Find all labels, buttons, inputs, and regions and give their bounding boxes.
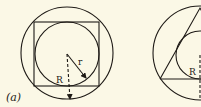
- diagram-canvas: (a) R r R: [0, 0, 201, 107]
- radius-R-line: [67, 54, 70, 99]
- panel-a: [21, 7, 113, 99]
- label-R-a: R: [56, 75, 63, 85]
- label-r-a: r: [78, 57, 83, 67]
- panel-a-caption: (a): [6, 91, 21, 104]
- geometry-figure: (a) R r R: [0, 0, 201, 107]
- label-R-b: R: [189, 67, 196, 77]
- panel-b: [153, 6, 201, 100]
- radius-r-line: [67, 54, 86, 78]
